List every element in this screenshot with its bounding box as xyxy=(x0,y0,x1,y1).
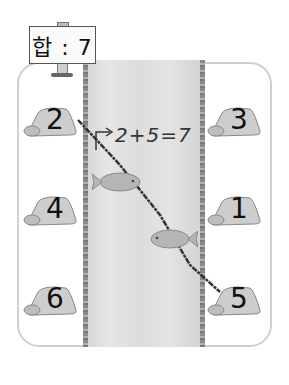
stone-value: 5 xyxy=(224,282,254,316)
stone-value: 1 xyxy=(224,192,254,226)
equation-text: 2+5=7 xyxy=(115,123,192,147)
stone-value: 6 xyxy=(40,282,70,316)
stone-5[interactable]: 5 xyxy=(206,284,262,318)
stone-value: 4 xyxy=(40,192,70,226)
stone-3[interactable]: 3 xyxy=(206,105,262,139)
stone-value: 2 xyxy=(40,103,70,137)
stone-4[interactable]: 4 xyxy=(22,194,78,228)
stone-6[interactable]: 6 xyxy=(22,284,78,318)
fish-icon xyxy=(148,227,198,251)
stone-1[interactable]: 1 xyxy=(206,194,262,228)
stone-value: 3 xyxy=(224,103,254,137)
stone-2[interactable]: 2 xyxy=(22,105,78,139)
fish-icon xyxy=(92,170,144,194)
